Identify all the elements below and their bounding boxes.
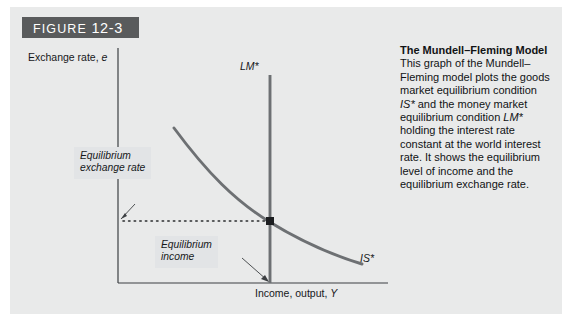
- figure-header-number: 12-3: [91, 20, 122, 36]
- caption-body-1: This graph of the Mundell–Fleming model …: [400, 57, 550, 96]
- figure-header-prefix: FIGURE: [33, 22, 87, 36]
- equilibrium-income-callout-line2: income: [161, 251, 212, 263]
- caption-is-star: IS*: [400, 98, 415, 110]
- caption-body-3: holding the interest rate constant at th…: [400, 124, 541, 190]
- lm-curve-label: LM*: [240, 60, 259, 72]
- figure-caption: The Mundell–Fleming Model This graph of …: [400, 44, 552, 191]
- y-axis-label: Exchange rate, e: [28, 51, 107, 63]
- x-axis-label-text: Income, output,: [255, 287, 330, 299]
- figure-root: FIGURE 12-3 Exchange rate, e Income, out…: [0, 0, 566, 321]
- y-axis-label-symbol: e: [102, 51, 108, 63]
- figure-header-label: FIGURE 12-3: [33, 20, 123, 36]
- figure-header-badge: FIGURE 12-3: [22, 17, 139, 38]
- equilibrium-exchange-rate-callout-line1: Equilibrium: [80, 150, 145, 162]
- equilibrium-exchange-rate-callout-line2: exchange rate: [80, 162, 145, 174]
- income-leader-line: [242, 258, 267, 280]
- is-curve-label: IS*: [360, 252, 374, 264]
- x-axis-label-symbol: Y: [330, 287, 337, 299]
- equilibrium-income-callout: Equilibrium income: [155, 236, 218, 268]
- x-axis-label: Income, output, Y: [255, 287, 337, 299]
- chart-plot-area: Exchange rate, e Income, output, Y LM* I…: [22, 44, 390, 306]
- caption-lm-star: LM*: [503, 111, 523, 123]
- equilibrium-exchange-rate-callout: Equilibrium exchange rate: [74, 147, 151, 179]
- y-axis-label-text: Exchange rate,: [28, 51, 102, 63]
- equilibrium-point-marker: [266, 217, 274, 225]
- caption-title: The Mundell–Fleming Model: [400, 44, 547, 56]
- equilibrium-income-callout-line1: Equilibrium: [161, 239, 212, 251]
